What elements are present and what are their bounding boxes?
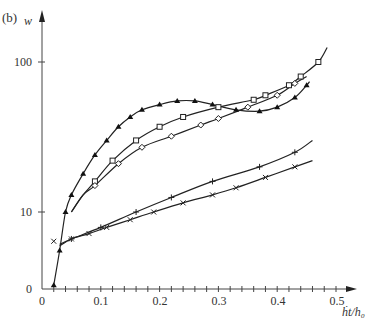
- chart-plot-area: [0, 0, 381, 328]
- marker-filled-triangle: [63, 209, 69, 214]
- marker-open-square: [286, 83, 291, 88]
- marker-open-diamond: [139, 144, 145, 150]
- x-tick-label-0: 0: [39, 295, 45, 307]
- y-axis-label: w: [24, 15, 32, 27]
- y-tick-label-100: 100: [2, 56, 32, 68]
- x-tick-label-0.5: 0.5: [330, 295, 345, 307]
- marker-filled-triangle: [80, 171, 86, 176]
- marker-filled-triangle: [51, 282, 57, 287]
- marker-open-square: [181, 114, 186, 119]
- marker-plus: [210, 178, 216, 184]
- curve-open-square: [71, 47, 327, 212]
- marker-cross: [51, 239, 56, 244]
- marker-open-square: [263, 93, 268, 98]
- y-tick-label-0: 0: [2, 283, 32, 295]
- marker-open-diamond: [168, 133, 174, 139]
- marker-filled-triangle: [57, 248, 63, 253]
- marker-plus: [257, 164, 263, 170]
- panel-label: (b): [2, 11, 17, 24]
- marker-open-square: [134, 138, 139, 143]
- x-axis-label: ḣt/h₀: [342, 306, 365, 318]
- x-tick-label-0.2: 0.2: [153, 295, 168, 307]
- marker-filled-triangle: [68, 192, 74, 197]
- marker-plus: [133, 209, 139, 215]
- curve-open-diamond: [71, 77, 306, 212]
- marker-plus: [98, 224, 104, 230]
- marker-open-diamond: [215, 116, 221, 122]
- x-tick-label-0.4: 0.4: [271, 295, 286, 307]
- curve-plus: [60, 140, 313, 244]
- marker-open-square: [157, 124, 162, 129]
- marker-open-square: [298, 74, 303, 79]
- x-tick-label-0.1: 0.1: [94, 295, 109, 307]
- marker-open-square: [251, 97, 256, 102]
- marker-open-square: [216, 105, 221, 110]
- marker-plus: [292, 149, 298, 155]
- marker-open-diamond: [274, 92, 280, 98]
- marker-filled-triangle: [127, 114, 133, 119]
- y-tick-label-10: 10: [2, 206, 32, 218]
- curve-cross: [60, 161, 313, 246]
- marker-open-square: [316, 60, 321, 65]
- marker-open-diamond: [245, 104, 251, 110]
- marker-open-diamond: [198, 122, 204, 128]
- x-axis-arrow-icon: [346, 286, 357, 292]
- y-axis-arrow-icon: [39, 10, 45, 22]
- marker-plus: [168, 194, 174, 200]
- axes: [38, 10, 357, 292]
- marker-open-square: [110, 158, 115, 163]
- x-tick-label-0.3: 0.3: [212, 295, 227, 307]
